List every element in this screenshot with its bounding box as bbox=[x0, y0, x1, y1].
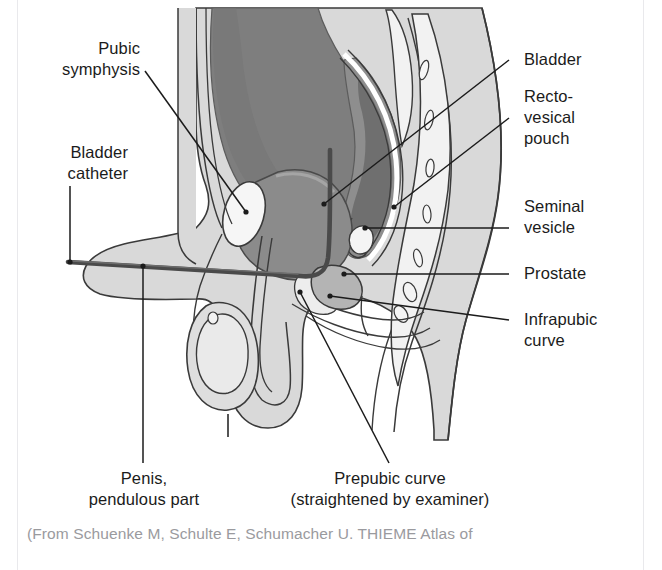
label-seminal-vesicle: Seminal vesicle bbox=[524, 196, 658, 238]
label-recto-vesical-pouch: Recto- vesical pouch bbox=[524, 86, 658, 149]
testis bbox=[196, 314, 248, 393]
abdominal-wall-shade bbox=[178, 8, 196, 262]
label-prepubic-curve: Prepubic curve (straightened by examiner… bbox=[274, 468, 506, 510]
leader-dot-prepubic-curve bbox=[297, 289, 302, 294]
figure-page: Pubic symphysis Bladder catheter Bladder… bbox=[0, 0, 662, 570]
seminal-vesicle-shape bbox=[349, 226, 373, 254]
label-prostate: Prostate bbox=[524, 263, 658, 284]
figure-source-caption: (From Schuenke M, Schulte E, Schumacher … bbox=[27, 524, 473, 544]
epididymis bbox=[208, 312, 218, 324]
leader-dot-prostate bbox=[341, 271, 346, 276]
leader-dot-pubic-symphysis bbox=[243, 209, 248, 214]
label-bladder: Bladder bbox=[524, 49, 658, 70]
leader-dot-recto-vesical-pouch bbox=[391, 204, 396, 209]
label-infrapubic-curve: Infrapubic curve bbox=[524, 309, 662, 351]
leader-dot-bladder bbox=[321, 201, 326, 206]
leader-dot-infrapubic-curve bbox=[327, 293, 332, 298]
leader-dot-bladder-catheter bbox=[67, 259, 72, 264]
label-penis-pendulous-part: Penis, pendulous part bbox=[63, 468, 225, 510]
leader-dot-seminal-vesicle bbox=[362, 225, 367, 230]
label-pubic-symphysis: Pubic symphysis bbox=[0, 38, 140, 80]
label-bladder-catheter: Bladder catheter bbox=[0, 142, 128, 184]
leader-prepubic-curve bbox=[300, 292, 389, 463]
leader-dot-penis-pendulous-part bbox=[140, 263, 145, 268]
